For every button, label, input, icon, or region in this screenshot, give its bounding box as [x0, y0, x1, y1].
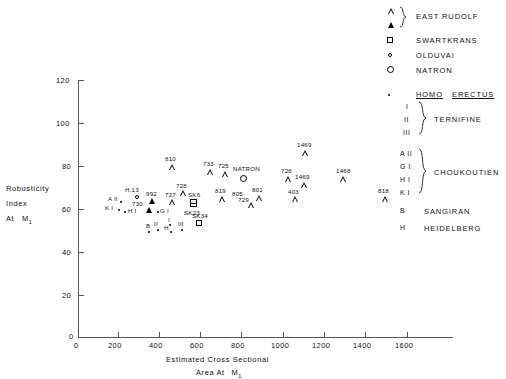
y-axis-title-sub: 1: [29, 219, 33, 225]
data-point-erectus[interactable]: [170, 231, 172, 233]
triangle-open-icon: [219, 196, 225, 202]
dot-icon: [170, 231, 172, 233]
legend-ternifine-item-3: III: [403, 129, 410, 136]
point-label: H: [164, 224, 169, 231]
point-label: 728: [176, 182, 187, 189]
legend-ternifine-item-2: II: [404, 116, 409, 123]
brace-east-rudolf: [399, 6, 407, 30]
legend-label-ternifine: TERNIFINE: [434, 115, 482, 124]
x-tick-600: [200, 332, 201, 337]
data-point-east-rudolf[interactable]: [340, 176, 346, 182]
dot-icon: [120, 201, 122, 203]
legend-item-olduvai[interactable]: [388, 53, 402, 57]
data-point-swartkrans[interactable]: [196, 220, 202, 226]
triangle-open-icon: [285, 176, 291, 182]
data-point-east-rudolf[interactable]: [301, 182, 307, 188]
triangle-open-icon: [302, 150, 308, 156]
x-ticklabel-1000: 1000: [271, 341, 289, 350]
x-ticklabel-200: 200: [108, 341, 122, 350]
data-point-erectus[interactable]: [181, 229, 183, 231]
data-point-east-rudolf-filled[interactable]: [149, 198, 155, 204]
data-point-east-rudolf[interactable]: [382, 196, 388, 202]
square-icon: [190, 199, 197, 207]
y-ticklabel-40: 40: [62, 248, 71, 257]
y-axis-title-line3: At M1: [6, 214, 33, 225]
y-tick-20: [79, 295, 84, 296]
legend-choukoutien-item-1: A II: [400, 150, 412, 157]
point-label: H I: [128, 207, 137, 214]
legend-item-natron[interactable]: [387, 66, 401, 73]
square-icon: [387, 37, 401, 43]
y-tick-100: [79, 123, 84, 124]
data-point-east-rudolf[interactable]: [292, 196, 298, 202]
data-point-natron[interactable]: [240, 175, 247, 182]
x-tick-1200: [324, 332, 325, 337]
data-point-erectus[interactable]: [120, 201, 122, 203]
triangle-filled-icon: [146, 207, 152, 213]
legend-item-swartkrans[interactable]: [387, 37, 401, 43]
triangle-open-icon: [207, 169, 213, 175]
triangle-open-icon: [222, 171, 228, 177]
y-axis-title-m: M: [22, 214, 29, 223]
dot-icon: [118, 209, 120, 211]
data-point-olduvai[interactable]: [135, 195, 139, 199]
point-label: SK6: [188, 191, 200, 198]
triangle-filled-icon: [149, 198, 155, 204]
data-point-east-rudolf[interactable]: [207, 169, 213, 175]
triangle-open-icon: [169, 199, 175, 205]
legend-label-erectus: ERECTUS: [452, 90, 494, 99]
data-point-erectus[interactable]: [169, 224, 171, 226]
legend-label-choukoutien: CHOUKOUTIEN: [434, 168, 499, 177]
point-label: 992: [146, 190, 157, 197]
legend-label-swartkrans: SWARTKRANS: [416, 36, 478, 45]
point-label: 1469: [295, 173, 310, 180]
x-tick-1400: [365, 332, 366, 337]
data-point-east-rudolf[interactable]: [248, 202, 254, 208]
x-axis-title-area-at: Area At: [196, 368, 225, 377]
triangle-open-icon: [340, 176, 346, 182]
data-point-east-rudolf-filled[interactable]: [146, 207, 152, 213]
data-point-erectus[interactable]: [118, 209, 120, 211]
point-label: A II: [108, 195, 118, 202]
data-point-east-rudolf[interactable]: [169, 164, 175, 170]
data-point-erectus[interactable]: [157, 229, 159, 231]
point-label: 819: [215, 187, 226, 194]
point-label: 1469: [297, 141, 312, 148]
data-point-east-rudolf[interactable]: [256, 195, 262, 201]
dot-icon: [181, 229, 183, 231]
triangle-open-icon: [256, 195, 262, 201]
data-point-erectus[interactable]: [124, 211, 126, 213]
point-label: 733: [203, 160, 214, 167]
data-point-east-rudolf[interactable]: [169, 199, 175, 205]
triangle-open-icon: [180, 190, 186, 196]
legend-label-homo: HOMO: [416, 90, 443, 99]
data-point-swartkrans[interactable]: [190, 199, 197, 207]
legend-item-homo-erectus[interactable]: [388, 94, 402, 96]
point-label: 725: [218, 162, 229, 169]
data-point-east-rudolf[interactable]: [302, 150, 308, 156]
legend-label-heidelberg: HEIDELBERG: [424, 224, 481, 233]
data-point-east-rudolf[interactable]: [219, 196, 225, 202]
square-icon: [196, 220, 202, 226]
point-label: 730: [132, 200, 143, 207]
y-tick-80: [79, 166, 84, 167]
point-label: 727: [165, 191, 176, 198]
dot-icon: [124, 211, 126, 213]
point-label: G I: [160, 207, 169, 214]
data-point-east-rudolf[interactable]: [285, 176, 291, 182]
x-tick-1000: [283, 332, 284, 337]
triangle-open-icon: [169, 164, 175, 170]
data-point-erectus[interactable]: [148, 231, 150, 233]
point-label: 810: [165, 155, 176, 162]
circle-small-icon: [388, 53, 402, 57]
point-label: 403: [288, 188, 299, 195]
point-label: I: [168, 216, 170, 223]
data-point-east-rudolf[interactable]: [222, 171, 228, 177]
point-label: II: [154, 220, 158, 227]
triangle-open-icon: [382, 196, 388, 202]
point-label: 801: [252, 186, 263, 193]
x-axis-line: [78, 337, 453, 338]
y-axis-title-line1: Robusticity: [6, 184, 49, 193]
data-point-east-rudolf[interactable]: [180, 190, 186, 196]
legend-label-east-rudolf: EAST RUDOLF: [416, 12, 478, 21]
